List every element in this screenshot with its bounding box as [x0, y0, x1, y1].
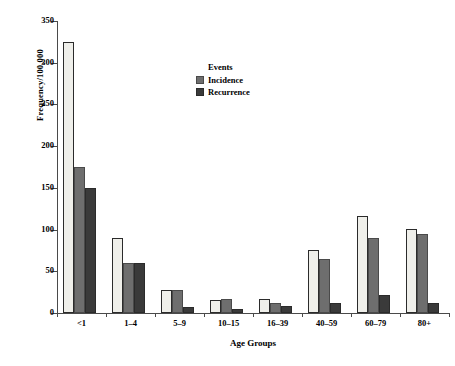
x-tick-mark: [449, 313, 450, 317]
legend-item-label: Recurrence: [208, 87, 250, 97]
bar: [210, 300, 221, 313]
legend-item: Incidence: [196, 75, 250, 85]
bar: [417, 234, 428, 313]
x-tick-label: 16–39: [253, 318, 302, 328]
legend-swatch-icon: [196, 76, 204, 84]
bar: [319, 259, 330, 313]
bar-group: [57, 21, 106, 313]
bar: [161, 290, 172, 313]
x-tick-mark: [57, 313, 58, 317]
y-tick-label: 250: [41, 98, 54, 108]
bar-group: [302, 21, 351, 313]
bar-group: [253, 21, 302, 313]
x-tick-label: 1–4: [106, 318, 155, 328]
bar: [379, 295, 390, 313]
bar: [368, 238, 379, 313]
bar: [63, 42, 74, 313]
bar: [330, 303, 341, 313]
x-tick-mark: [253, 313, 254, 317]
bar: [112, 238, 123, 313]
x-tick-mark: [351, 313, 352, 317]
bar: [134, 263, 145, 313]
bar: [308, 250, 319, 313]
bar: [281, 306, 292, 313]
bar: [74, 167, 85, 313]
y-tick-label: 150: [41, 182, 54, 192]
y-tick-label: 100: [41, 224, 54, 234]
bar-chart: Frequency/100,000 050100150200250300350 …: [0, 0, 455, 366]
bar: [357, 216, 368, 313]
legend-item: Recurrence: [196, 87, 250, 97]
legend-swatch-icon: [196, 88, 204, 96]
x-tick-label: 10–15: [204, 318, 253, 328]
x-tick-label: <1: [57, 318, 106, 328]
x-tick-mark: [155, 313, 156, 317]
x-tick-label: 5–9: [155, 318, 204, 328]
x-tick-label: 60–79: [351, 318, 400, 328]
x-tick-mark: [400, 313, 401, 317]
bar: [406, 229, 417, 313]
y-tick-label: 350: [41, 15, 54, 25]
bar: [428, 303, 439, 313]
y-tick-label: 50: [46, 265, 55, 275]
legend: Events IncidenceRecurrence: [196, 62, 250, 99]
legend-entries: IncidenceRecurrence: [196, 75, 250, 97]
x-tick-mark: [302, 313, 303, 317]
bar: [270, 303, 281, 313]
x-axis-tick-labels: <11–45–910–1516–3940–5960–7980+: [57, 318, 449, 328]
bar-group: [400, 21, 449, 313]
bar: [221, 299, 232, 313]
x-tick-mark: [204, 313, 205, 317]
bar-group: [106, 21, 155, 313]
y-tick-label: 300: [41, 57, 54, 67]
bar-group: [351, 21, 400, 313]
bar: [123, 263, 134, 313]
legend-title: Events: [208, 62, 250, 72]
bar: [259, 299, 270, 313]
legend-item-label: Incidence: [208, 75, 243, 85]
y-tick-label: 0: [50, 307, 54, 317]
x-tick-mark: [106, 313, 107, 317]
y-tick-label: 200: [41, 140, 54, 150]
bar: [172, 290, 183, 313]
bar: [85, 188, 96, 313]
bar-groups: [57, 21, 449, 313]
x-tick-label: 40–59: [302, 318, 351, 328]
x-axis-title: Age Groups: [57, 338, 449, 348]
x-tick-label: 80+: [400, 318, 449, 328]
plot-area: 050100150200250300350: [57, 21, 449, 313]
